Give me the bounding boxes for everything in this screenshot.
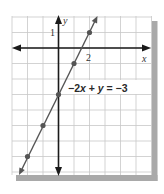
grid-panel <box>12 16 152 175</box>
x-axis-label: x <box>141 53 147 64</box>
data-point <box>25 154 30 159</box>
data-point <box>87 30 92 35</box>
equation-plus: + <box>86 82 98 94</box>
equation-label: −2x + y = −3 <box>68 82 128 94</box>
coordinate-graph: y x 1 2 −2x + y = −3 <box>0 0 164 194</box>
data-point <box>71 61 76 66</box>
equation-rhs: = −3 <box>104 82 128 94</box>
graph-shadow-bottom <box>16 175 158 181</box>
graph-shadow-right <box>152 21 158 181</box>
x-tick-label: 2 <box>86 52 91 63</box>
data-point <box>56 92 61 97</box>
y-axis-label: y <box>62 15 68 26</box>
y-tick-label: 1 <box>50 27 55 38</box>
equation-coef: −2 <box>68 82 80 94</box>
data-point <box>40 123 45 128</box>
